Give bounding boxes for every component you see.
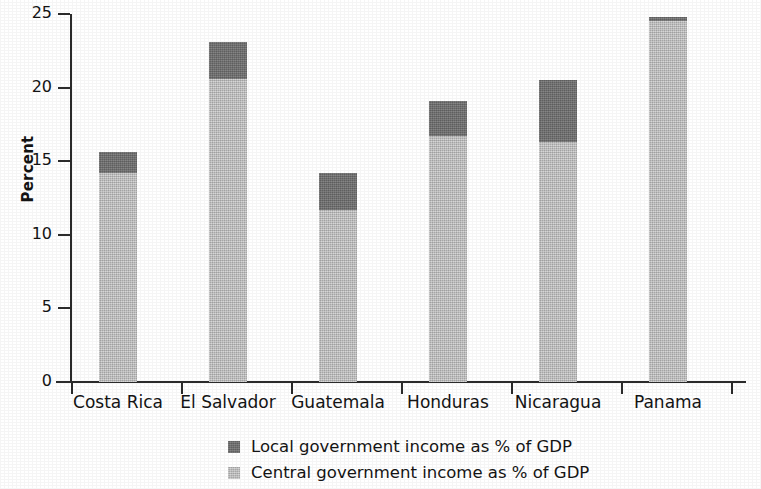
stacked-bar-chart: Percent 2520151050 Costa RicaEl Salvador… bbox=[0, 0, 761, 489]
bar-group bbox=[539, 80, 577, 382]
x-tick-mark bbox=[731, 383, 733, 394]
bar-segment-central bbox=[539, 142, 577, 382]
y-tick-mark bbox=[58, 13, 70, 15]
y-tick-label: 15 bbox=[6, 150, 52, 169]
y-tick-label: 10 bbox=[6, 224, 52, 243]
bar-segment-local bbox=[209, 42, 247, 79]
bar-segment-central bbox=[649, 21, 687, 382]
y-tick-label: 25 bbox=[6, 3, 52, 22]
x-axis-category-label: Nicaragua bbox=[498, 392, 618, 412]
bar-group bbox=[429, 101, 467, 382]
bar-segment-local bbox=[539, 80, 577, 142]
y-tick-mark bbox=[58, 160, 70, 162]
legend-swatch-local bbox=[228, 441, 240, 453]
x-axis-category-label: Honduras bbox=[388, 392, 508, 412]
x-axis-category-label: Costa Rica bbox=[58, 392, 178, 412]
bar-group bbox=[99, 152, 137, 382]
bar-segment-local bbox=[319, 173, 357, 210]
legend-item: Local government income as % of GDP bbox=[228, 437, 572, 456]
legend-label: Central government income as % of GDP bbox=[251, 463, 589, 482]
legend-swatch-central bbox=[228, 467, 240, 479]
bar-group bbox=[649, 17, 687, 382]
y-tick-mark bbox=[58, 234, 70, 236]
bar-segment-local bbox=[99, 152, 137, 173]
x-axis-category-label: Panama bbox=[608, 392, 728, 412]
legend-label: Local government income as % of GDP bbox=[251, 437, 572, 456]
y-tick-mark bbox=[58, 381, 70, 383]
bar-segment-central bbox=[99, 173, 137, 382]
x-axis-category-label: El Salvador bbox=[168, 392, 288, 412]
y-tick-label: 0 bbox=[6, 371, 52, 390]
y-tick-mark bbox=[58, 307, 70, 309]
bar-group bbox=[209, 42, 247, 382]
y-tick-label: 5 bbox=[6, 297, 52, 316]
x-axis-category-label: Guatemala bbox=[278, 392, 398, 412]
bar-segment-central bbox=[209, 79, 247, 382]
bar-segment-central bbox=[429, 136, 467, 382]
y-axis-line bbox=[70, 14, 72, 383]
y-tick-mark bbox=[58, 87, 70, 89]
bar-segment-local bbox=[429, 101, 467, 136]
y-tick-label: 20 bbox=[6, 77, 52, 96]
legend-item: Central government income as % of GDP bbox=[228, 463, 589, 482]
bar-group bbox=[319, 173, 357, 382]
bar-segment-central bbox=[319, 210, 357, 382]
